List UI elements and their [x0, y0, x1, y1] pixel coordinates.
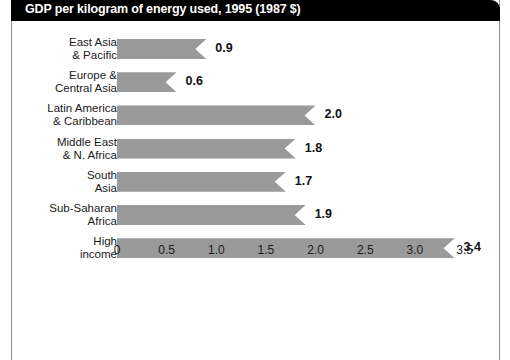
x-tick-label: 2.0 [307, 243, 324, 257]
x-axis: 00.51.01.52.02.53.03.5 [0, 243, 510, 263]
bar [117, 72, 177, 92]
chart-title: GDP per kilogram of energy used, 1995 (1… [25, 2, 301, 16]
bar-container [117, 72, 177, 92]
bar-value-label: 1.7 [295, 174, 312, 188]
category-label: South Asia [0, 169, 117, 195]
x-tick-label: 1.0 [208, 243, 225, 257]
bar-row: Sub-Saharan Africa1.9 [0, 205, 510, 225]
bar [117, 139, 296, 159]
x-tick-label: 0 [114, 243, 121, 257]
bar-row: Middle East & N. Africa1.8 [0, 139, 510, 159]
x-tick-label: 0.5 [158, 243, 175, 257]
bar [117, 172, 286, 192]
bar-value-label: 0.6 [186, 74, 203, 88]
bar [117, 39, 206, 59]
bar [117, 105, 316, 125]
bar-value-label: 0.9 [215, 41, 232, 55]
bar-container [117, 205, 306, 225]
bar-container [117, 39, 206, 59]
bar-value-label: 1.8 [305, 141, 322, 155]
x-tick-label: 3.5 [456, 243, 473, 257]
bar-container [117, 105, 316, 125]
plot-area: East Asia & Pacific0.9Europe & Central A… [0, 21, 510, 360]
bar-row: Latin America & Caribbean2.0 [0, 105, 510, 125]
chart-title-bar: GDP per kilogram of energy used, 1995 (1… [11, 0, 500, 21]
category-label: East Asia & Pacific [0, 36, 117, 62]
category-label: Middle East & N. Africa [0, 136, 117, 162]
bar-value-label: 2.0 [325, 107, 342, 121]
bar-container [117, 172, 286, 192]
chart-figure: GDP per kilogram of energy used, 1995 (1… [0, 0, 510, 360]
bar-row: Europe & Central Asia0.6 [0, 72, 510, 92]
x-tick-label: 3.0 [407, 243, 424, 257]
category-label: Sub-Saharan Africa [0, 202, 117, 228]
bar [117, 205, 306, 225]
bar-container [117, 139, 296, 159]
bar-row: East Asia & Pacific0.9 [0, 39, 510, 59]
bar-value-label: 1.9 [315, 207, 332, 221]
category-label: Europe & Central Asia [0, 69, 117, 95]
x-tick-label: 1.5 [258, 243, 275, 257]
category-label: Latin America & Caribbean [0, 102, 117, 128]
bar-row: South Asia1.7 [0, 172, 510, 192]
x-tick-label: 2.5 [357, 243, 374, 257]
